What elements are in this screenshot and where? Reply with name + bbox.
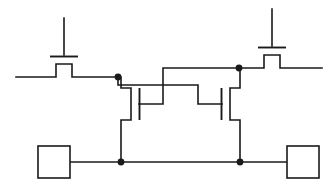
right-square-terminal[interactable] [287,146,319,178]
right-channel-path [239,55,322,68]
right-driver-transistor [118,68,240,162]
node-left-ground [118,159,125,166]
circuit-schematic-canvas [0,0,336,184]
node-left-storage [115,74,122,81]
left-channel-path [16,64,118,77]
left-driver-gate-lead [139,68,239,104]
circuit-diagram [0,0,336,184]
right-driver-gate-lead [118,77,222,104]
left-access-transistor [16,18,118,77]
node-right-storage [236,65,243,72]
left-square-terminal[interactable] [38,146,70,178]
right-driver-channel-path [230,68,240,162]
right-access-transistor [239,9,322,68]
left-driver-channel-path [121,77,131,162]
node-right-ground [237,159,244,166]
